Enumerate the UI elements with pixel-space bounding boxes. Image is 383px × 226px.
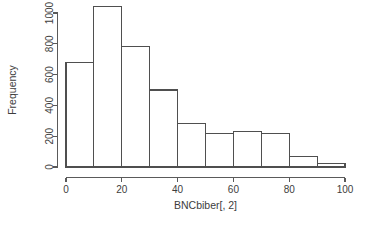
y-axis-tick-label: 600 bbox=[44, 66, 55, 83]
histogram-bars bbox=[66, 7, 345, 167]
histogram-bar bbox=[233, 132, 261, 167]
x-axis-tick-label: 60 bbox=[228, 184, 240, 195]
y-axis: 02004006008001000 bbox=[44, 1, 58, 169]
y-axis-tick-label: 1000 bbox=[44, 1, 55, 24]
x-axis-title: BNCbiber[, 2] bbox=[174, 199, 237, 211]
histogram-bar bbox=[122, 46, 150, 167]
y-axis-tick-label: 800 bbox=[44, 35, 55, 52]
y-axis-tick-label: 0 bbox=[44, 164, 55, 170]
x-axis-tick-label: 40 bbox=[172, 184, 184, 195]
x-axis-tick-label: 0 bbox=[63, 184, 69, 195]
y-axis-tick-label: 400 bbox=[44, 97, 55, 114]
y-axis-title: Frequency bbox=[6, 64, 18, 114]
histogram-bar bbox=[261, 133, 289, 167]
histogram-bar bbox=[317, 164, 345, 167]
y-axis-tick-label: 200 bbox=[44, 127, 55, 144]
histogram-bar bbox=[66, 62, 94, 167]
histogram-bar bbox=[289, 156, 317, 167]
histogram-bar bbox=[94, 7, 122, 167]
x-axis-tick-label: 80 bbox=[284, 184, 296, 195]
x-axis: 020406080100 bbox=[63, 178, 354, 195]
histogram-bar bbox=[178, 123, 206, 167]
histogram-bar bbox=[150, 90, 178, 167]
x-axis-tick-label: 100 bbox=[337, 184, 354, 195]
x-axis-tick-label: 20 bbox=[116, 184, 128, 195]
histogram-plot: 02004006008001000020406080100BNCbiber[, … bbox=[0, 0, 383, 226]
histogram-bar bbox=[206, 133, 234, 167]
histogram-canvas: 02004006008001000020406080100BNCbiber[, … bbox=[0, 0, 383, 226]
